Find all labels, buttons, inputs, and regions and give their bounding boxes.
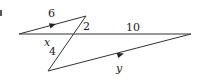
parallel-arrow-icon-bottom (117, 53, 124, 58)
parallel-arrow-icon-top (49, 23, 56, 28)
geometry-figure: 6 2 10 x 4 y (0, 0, 204, 79)
label-top-segment: 6 (48, 8, 55, 19)
label-horizontal-right: 10 (126, 22, 140, 33)
label-transversal-lower: 4 (49, 46, 56, 57)
label-bottom-segment: y (116, 63, 122, 74)
diagram-lines (0, 0, 204, 79)
label-transversal-upper: 2 (83, 21, 90, 32)
